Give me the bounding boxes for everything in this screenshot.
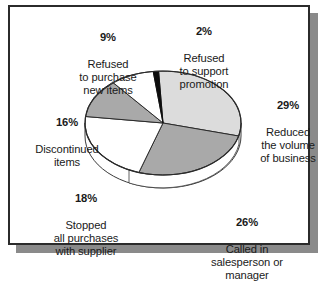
pie-chart: 9% Refused to purchase new items 2% Refu…: [10, 7, 308, 243]
pie-label-refused-new-items: 9% Refused to purchase new items: [56, 18, 160, 110]
pie-label-text: Refused to support promotion: [156, 52, 252, 92]
pie-label-percent: 2%: [156, 25, 252, 38]
pie-label-stopped-purchases: 18% Stopped all purchases with supplier: [28, 179, 144, 271]
pie-label-percent: 18%: [28, 192, 144, 205]
pie-label-percent: 9%: [56, 31, 160, 44]
figure-frame: 9% Refused to purchase new items 2% Refu…: [8, 5, 310, 245]
pie-label-text: Called in salesperson or manager: [186, 243, 308, 283]
pie-label-text: Discontinued items: [16, 143, 118, 169]
pie-label-reduced-volume: 29% Reduced the volume of business: [246, 86, 326, 178]
pie-label-text: Refused to purchase new items: [56, 58, 160, 98]
pie-label-percent: 26%: [186, 216, 308, 229]
pie-label-refused-promotion: 2% Refused to support promotion: [156, 12, 252, 104]
pie-label-discontinued-items: 16% Discontinued items: [16, 103, 118, 182]
pie-label-percent: 16%: [16, 116, 118, 129]
pie-label-percent: 29%: [246, 99, 326, 112]
pie-label-called-salesperson: 26% Called in salesperson or manager: [186, 203, 308, 285]
pie-label-text: Reduced the volume of business: [246, 126, 326, 166]
pie-label-text: Stopped all purchases with supplier: [28, 219, 144, 259]
